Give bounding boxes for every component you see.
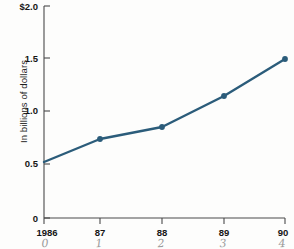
chart-figure: In billions of dollars $2.0 1.5 1.0 0.5 … bbox=[0, 0, 294, 249]
y-tick-marks bbox=[44, 6, 50, 218]
data-point-89 bbox=[221, 93, 227, 99]
plot-area bbox=[0, 0, 294, 249]
data-point-90 bbox=[282, 56, 288, 62]
x-tick-marks bbox=[44, 218, 285, 224]
data-point-markers bbox=[97, 56, 288, 142]
data-line-series-1 bbox=[44, 59, 285, 162]
data-point-87 bbox=[97, 136, 103, 142]
data-point-88 bbox=[159, 124, 165, 130]
